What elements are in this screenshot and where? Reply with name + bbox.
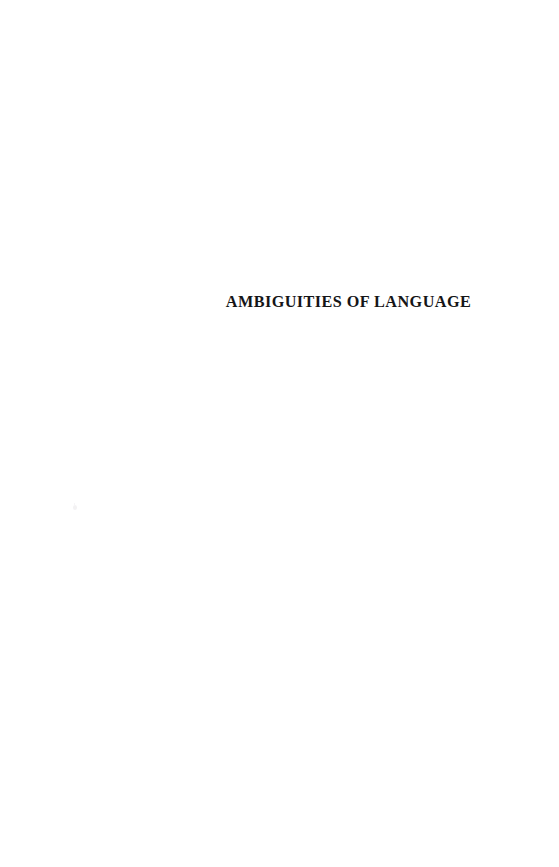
document-page: AMBIGUITIES OF LANGUAGE <box>0 0 559 867</box>
half-title-block: AMBIGUITIES OF LANGUAGE <box>0 293 559 312</box>
scan-speck-artifact <box>73 505 77 510</box>
page-surface <box>0 0 559 867</box>
half-title-heading: AMBIGUITIES OF LANGUAGE <box>226 293 471 312</box>
